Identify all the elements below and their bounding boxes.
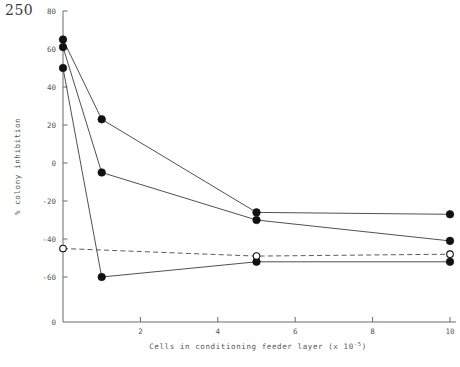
x-tick-label: 10 — [445, 327, 455, 336]
y-tick-label: -40 — [42, 235, 56, 244]
x-tick-label: 8 — [370, 327, 375, 336]
chart-plot: 806040200-20-40-600 246810 % colony inhi… — [0, 0, 460, 367]
axis-labels-group: % colony inhibitionCells in conditioning… — [13, 118, 367, 351]
data-point-series-4 — [447, 251, 454, 258]
y-tick-label: 40 — [47, 83, 57, 92]
y-axis-ticks: 806040200-20-40-600 — [42, 7, 67, 327]
data-point-series-4 — [60, 245, 67, 252]
data-point-series-3 — [59, 64, 67, 72]
data-point-series-1 — [253, 209, 261, 217]
data-point-series-2 — [59, 43, 67, 51]
data-point-series-3 — [98, 273, 106, 281]
y-tick-label: 20 — [47, 121, 57, 130]
data-point-series-2 — [253, 216, 261, 224]
data-point-series-1 — [59, 36, 67, 44]
y-tick-label: 60 — [47, 45, 57, 54]
data-point-series-1 — [446, 211, 454, 219]
origin-tick-label: 0 — [51, 318, 56, 327]
data-series-group — [59, 36, 454, 281]
data-point-series-3 — [446, 258, 454, 266]
x-tick-label: 4 — [216, 327, 221, 336]
y-axis-title: % colony inhibition — [13, 118, 22, 215]
data-point-series-2 — [446, 237, 454, 245]
series-line-series-1 — [63, 40, 450, 215]
figure-container: 250 806040200-20-40-600 246810 % colony … — [0, 0, 460, 367]
y-tick-label: 80 — [47, 7, 57, 16]
y-tick-label: -60 — [42, 273, 56, 282]
x-axis-title: Cells in conditioning feeder layer (x 10… — [149, 341, 367, 351]
data-point-series-2 — [98, 169, 106, 177]
data-point-series-4 — [253, 253, 260, 260]
y-tick-label: -20 — [42, 197, 56, 206]
x-tick-label: 6 — [293, 327, 298, 336]
series-line-series-3 — [63, 68, 450, 277]
data-point-series-1 — [98, 116, 106, 124]
x-axis-ticks: 246810 — [138, 317, 455, 336]
x-tick-label: 2 — [138, 327, 143, 336]
y-tick-label: 0 — [51, 159, 56, 168]
